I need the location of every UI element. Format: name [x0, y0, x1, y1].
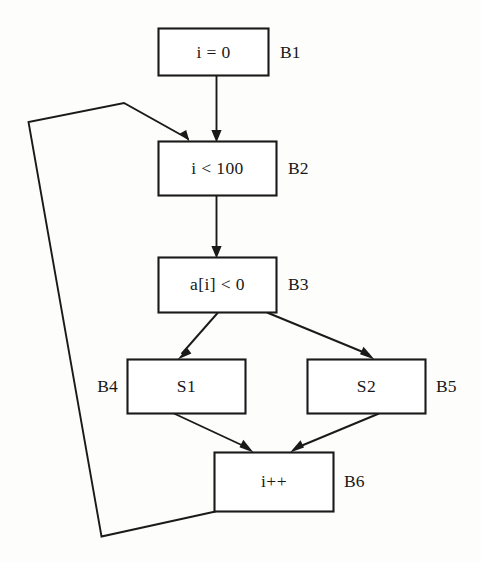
- node-b4-label: B4: [97, 376, 118, 396]
- node-b2-label: B2: [288, 158, 309, 178]
- node-b3-code: a[i] < 0: [190, 274, 245, 294]
- edge-b4-to-b6-path: [174, 414, 248, 449]
- node-b5[interactable]: S2 B5: [308, 360, 457, 414]
- node-b6-code: i++: [261, 471, 287, 491]
- node-b1-label: B1: [280, 42, 301, 62]
- edge-b5-to-b6-arrowhead: [290, 440, 304, 452]
- node-b6[interactable]: i++ B6: [215, 453, 365, 512]
- edge-b3-to-b5: [267, 313, 375, 360]
- edge-b3-to-b5-arrowhead: [360, 347, 375, 360]
- node-b6-label: B6: [344, 471, 365, 491]
- edge-b5-to-b6: [290, 414, 379, 453]
- edge-b5-to-b6-path: [296, 414, 379, 449]
- edge-b3-to-b5-path: [267, 313, 369, 355]
- node-b3[interactable]: a[i] < 0 B3: [159, 258, 309, 313]
- edge-b3-to-b4: [178, 313, 219, 360]
- control-flow-graph-canvas: i = 0 B1 i < 100 B2 a[i] < 0 B3 S1 B4: [0, 0, 481, 562]
- control-flow-graph-figure: i = 0 B1 i < 100 B2 a[i] < 0 B3 S1 B4: [0, 0, 481, 562]
- node-b1-code: i = 0: [196, 42, 230, 62]
- node-b5-label: B5: [436, 376, 457, 396]
- edge-b1-to-b2: [211, 76, 221, 143]
- node-b3-label: B3: [288, 274, 309, 294]
- node-b4-code: S1: [177, 376, 196, 396]
- node-b1[interactable]: i = 0 B1: [159, 29, 301, 76]
- node-group: i = 0 B1 i < 100 B2 a[i] < 0 B3 S1 B4: [97, 29, 457, 512]
- node-b2-code: i < 100: [191, 158, 244, 178]
- node-b5-code: S2: [357, 376, 376, 396]
- edge-b2-to-b3: [211, 196, 221, 259]
- node-b2[interactable]: i < 100 B2: [159, 142, 309, 196]
- node-b4[interactable]: S1 B4: [97, 360, 245, 414]
- edge-b4-to-b6-arrowhead: [240, 440, 254, 453]
- edge-b4-to-b6: [174, 414, 254, 453]
- edge-b3-to-b4-path: [182, 313, 219, 355]
